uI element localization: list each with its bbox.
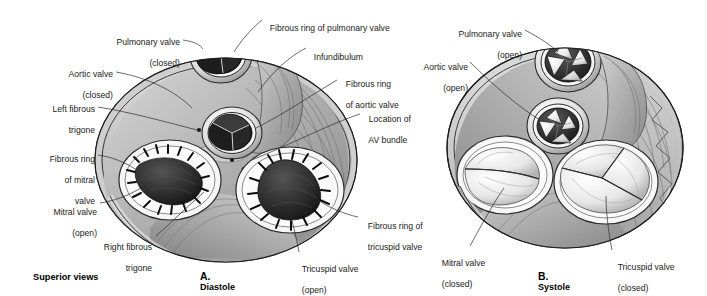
caption-letter-a: A.: [200, 271, 210, 282]
figure-note-superior-views: Superior views: [28, 262, 98, 282]
label-line: Pulmonary valve: [458, 29, 522, 39]
caption-letter-b: B.: [538, 271, 548, 282]
label-line: Right fibrous: [104, 242, 152, 252]
label-line: Location of: [369, 114, 411, 124]
label-line: Tricuspid valve: [302, 264, 359, 274]
label-line: Mitral valve: [54, 207, 97, 217]
label-line: Fibrous ring of: [368, 221, 423, 231]
label-line: trigone: [69, 125, 95, 135]
label-line: AV bundle: [368, 135, 407, 145]
label-location-of-av-bundle: Location of AV bundle: [364, 104, 464, 146]
mitral-valve-open-graphic: [119, 140, 221, 220]
aortic-valve-closed-graphic: [202, 107, 262, 159]
label-line: tricuspid valve: [368, 242, 422, 252]
label-line: Fibrous ring: [50, 154, 95, 164]
label-line: Infundibulum: [314, 52, 363, 62]
label-line: Pulmonary valve: [116, 37, 180, 47]
label-line: Tricuspid valve: [618, 262, 675, 272]
label-fibrous-ring-pulmonary-valve: Fibrous ring of pulmonary valve: [265, 13, 445, 34]
panel-b-systole-graphic: [447, 32, 683, 257]
label-line: Aortic valve: [424, 62, 468, 72]
label-left-fibrous-trigone: Left fibrous trigone: [8, 94, 95, 136]
label-line: (closed): [149, 58, 180, 68]
tricuspid-valve-closed-graphic: [554, 140, 658, 224]
right-fibrous-trigone-marker: [230, 158, 234, 162]
left-fibrous-trigone-marker: [197, 128, 201, 132]
caption-panel-b: B. Systole: [533, 261, 570, 292]
label-fibrous-ring-tricuspid-valve: Fibrous ring of tricuspid valve: [363, 211, 473, 253]
leader-fibrous-ring-pulmonary: [234, 20, 262, 52]
label-tricuspid-valve-a: Tricuspid valve (open): [297, 254, 397, 296]
label-line: (closed): [442, 279, 473, 289]
label-line: Left fibrous: [52, 104, 95, 114]
superior-views-text: Superior views: [33, 272, 98, 282]
label-line: trigone: [126, 263, 152, 273]
label-mitral-valve-b: Mitral valve (closed): [437, 248, 517, 290]
caption-name-a: Diastole: [200, 282, 235, 292]
pulmonary-valve-open-graphic: [535, 32, 601, 92]
label-line: Fibrous ring of pulmonary valve: [270, 23, 390, 33]
leader-pulmonary-valve-a: [183, 40, 203, 49]
label-line: (open): [443, 83, 468, 93]
label-line: Fibrous ring: [346, 79, 391, 89]
label-line: (open): [497, 50, 522, 60]
label-line: Aortic valve: [69, 69, 113, 79]
label-aortic-valve-b: Aortic valve (open): [398, 52, 468, 94]
label-line: Mitral valve: [442, 258, 485, 268]
pulmonary-valve-closed-graphic: [190, 27, 252, 83]
caption-name-b: Systole: [538, 282, 570, 292]
caption-panel-a: A. Diastole: [195, 261, 235, 292]
label-line: of mitral: [64, 175, 95, 185]
label-line: (closed): [618, 283, 649, 293]
label-tricuspid-valve-b: Tricuspid valve (closed): [613, 252, 705, 294]
label-line: (open): [302, 285, 327, 295]
